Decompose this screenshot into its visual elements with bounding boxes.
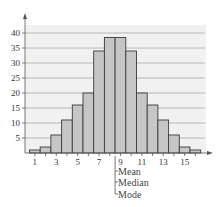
bar-5 [72,105,83,153]
y-tick-labels: 510152025303540 [11,28,25,143]
y-tick-label: 10 [11,118,21,128]
bar-10 [126,51,137,153]
y-tick-label: 25 [11,73,21,83]
x-tick-label: 1 [33,157,38,167]
x-tick-labels: 13579111315 [33,153,196,167]
y-tick-label: 15 [11,103,21,113]
x-tick-label: 7 [97,157,102,167]
bar-4 [62,120,73,153]
x-tick-label: 15 [180,157,190,167]
bar-8 [104,38,115,154]
bar-15 [179,147,190,153]
bar-11 [137,93,148,153]
bar-6 [83,93,94,153]
x-tick-label: 3 [54,157,59,167]
x-axis-arrow-icon [207,151,213,155]
x-tick-label: 13 [159,157,169,167]
bar-9 [115,38,126,154]
histogram-chart: 510152025303540 13579111315 Mean Median … [0,0,218,207]
y-tick-label: 35 [11,43,21,53]
y-tick-label: 5 [16,133,21,143]
bar-12 [147,105,158,153]
y-axis-arrow-icon [23,13,27,19]
bar-1 [30,150,41,153]
mean-label: Mean [118,166,141,177]
y-tick-label: 20 [11,88,21,98]
bar-3 [51,135,62,153]
bar-16 [190,150,201,153]
y-tick-label: 40 [11,28,21,38]
median-label: Median [118,177,149,188]
bar-13 [158,120,169,153]
bar-14 [169,135,180,153]
y-tick-label: 30 [11,58,21,68]
mode-label: Mode [118,189,142,200]
bar-2 [40,147,51,153]
bar-7 [94,51,105,153]
x-tick-label: 5 [75,157,80,167]
